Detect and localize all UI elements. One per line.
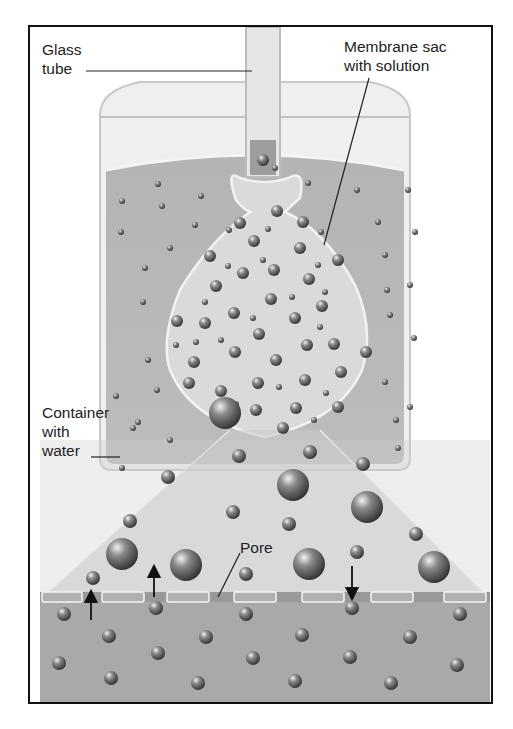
membrane-sac-label: Membrane sac with solution [344,37,447,75]
glass-tube-label: Glass tube [42,40,82,78]
pore-label: Pore [240,538,273,557]
magnified-membrane [40,592,490,702]
osmosis-illustration [0,0,513,729]
container-label: Container with water [42,403,109,460]
glass-tube [246,27,280,177]
